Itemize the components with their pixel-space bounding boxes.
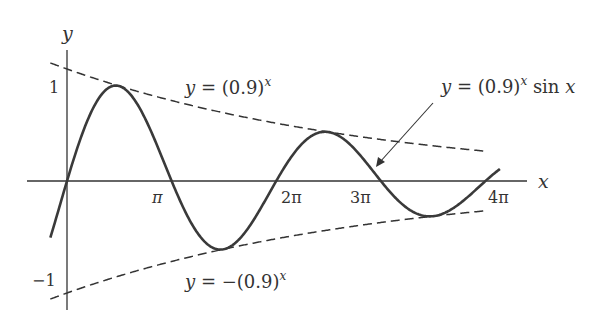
tick-pi: π [151, 188, 163, 207]
x-axis-label: x [538, 170, 549, 192]
annotation-arrow-line [380, 103, 433, 162]
curve-label: y = (0.9)x sin x [440, 74, 575, 97]
upper-envelope-label: y = (0.9)x [184, 75, 271, 98]
tick-2pi: 2π [281, 188, 302, 207]
tick-4pi: 4π [488, 188, 509, 207]
damped-sine-curve [50, 86, 500, 250]
chart-canvas: y x π 2π 3π 4π 1 −1 y = (0.9)x y = −(0.9… [0, 0, 600, 321]
lower-envelope-label: y = −(0.9)x [184, 269, 286, 292]
tick-y-neg-one: −1 [32, 271, 56, 290]
y-axis-label: y [61, 22, 73, 44]
tick-y-one: 1 [49, 78, 59, 97]
tick-3pi: 3π [350, 188, 371, 207]
